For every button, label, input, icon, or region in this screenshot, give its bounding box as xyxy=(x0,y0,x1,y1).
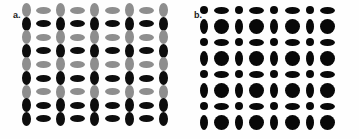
lattice-cell-a-r2-c5 xyxy=(105,34,120,41)
lattice-cell-b-r1-c6 xyxy=(306,19,314,34)
lattice-cell-a-r7-c7 xyxy=(139,102,154,109)
lattice-cell-b-r4-c6 xyxy=(306,70,314,78)
lattice-cell-b-r6-c3 xyxy=(249,103,264,110)
lattice-cell-a-r0-c6 xyxy=(125,3,134,17)
lattice-cell-b-r3-c2 xyxy=(235,51,243,66)
lattice-cell-b-r3-c0 xyxy=(200,51,208,66)
lattice-cell-a-r8-c3 xyxy=(70,115,85,122)
lattice-cell-a-r6-c1 xyxy=(36,88,51,95)
lattice-cell-a-r4-c7 xyxy=(139,61,154,68)
lattice-cell-a-r5-c3 xyxy=(70,75,85,82)
lattice-cell-a-r3-c4 xyxy=(90,44,99,58)
lattice-cell-a-r2-c1 xyxy=(36,34,51,41)
lattice-cell-a-r0-c4 xyxy=(90,3,99,17)
lattice-cell-a-r7-c6 xyxy=(125,98,134,112)
lattice-cell-b-r5-c2 xyxy=(235,83,243,98)
lattice-cell-a-r0-c2 xyxy=(56,3,65,17)
lattice-cell-b-r7-c7 xyxy=(320,115,335,130)
lattice-cell-b-r1-c7 xyxy=(320,19,335,34)
lattice-cell-a-r2-c2 xyxy=(56,30,65,44)
lattice-cell-b-r1-c2 xyxy=(235,19,243,34)
lattice-cell-b-r2-c0 xyxy=(200,38,208,46)
lattice-cell-b-r1-c5 xyxy=(285,19,300,34)
lattice-cell-b-r7-c0 xyxy=(200,115,208,130)
lattice-cell-a-r6-c8 xyxy=(159,85,168,99)
lattice-cell-b-r3-c7 xyxy=(320,51,335,66)
lattice-cell-a-r4-c4 xyxy=(90,57,99,71)
lattice-cell-a-r6-c0 xyxy=(22,85,31,99)
lattice-cell-b-r1-c1 xyxy=(214,19,229,34)
lattice-cell-a-r8-c8 xyxy=(159,112,168,126)
lattice-cell-a-r4-c5 xyxy=(105,61,120,68)
lattice-cell-b-r1-c3 xyxy=(249,19,264,34)
lattice-cell-b-r4-c5 xyxy=(285,71,300,78)
lattice-cell-a-r1-c5 xyxy=(105,20,120,27)
lattice-cell-a-r8-c2 xyxy=(56,112,65,126)
lattice-cell-a-r5-c1 xyxy=(36,75,51,82)
lattice-cell-a-r2-c6 xyxy=(125,30,134,44)
lattice-cell-a-r1-c1 xyxy=(36,20,51,27)
lattice-cell-a-r7-c0 xyxy=(22,98,31,112)
lattice-cell-a-r3-c1 xyxy=(36,47,51,54)
lattice-cell-b-r0-c6 xyxy=(306,6,314,14)
lattice-cell-a-r5-c5 xyxy=(105,75,120,82)
lattice-cell-a-r3-c2 xyxy=(56,44,65,58)
lattice-cell-a-r3-c3 xyxy=(70,47,85,54)
lattice-cell-a-r7-c8 xyxy=(159,98,168,112)
lattice-cell-a-r1-c4 xyxy=(90,17,99,31)
lattice-cell-b-r7-c5 xyxy=(285,115,300,130)
lattice-cell-b-r6-c0 xyxy=(200,102,208,110)
lattice-cell-b-r4-c3 xyxy=(249,71,264,78)
lattice-cell-a-r4-c8 xyxy=(159,57,168,71)
panel-b-lattice xyxy=(180,0,359,139)
lattice-cell-b-r2-c2 xyxy=(235,38,243,46)
panel-a: a. xyxy=(0,0,180,139)
lattice-cell-b-r2-c7 xyxy=(320,39,335,46)
lattice-cell-b-r0-c1 xyxy=(214,7,229,14)
panel-a-lattice xyxy=(0,0,180,139)
lattice-cell-a-r4-c0 xyxy=(22,57,31,71)
lattice-cell-b-r2-c4 xyxy=(270,38,278,46)
lattice-cell-b-r5-c0 xyxy=(200,83,208,98)
lattice-cell-a-r5-c2 xyxy=(56,71,65,85)
lattice-cell-b-r7-c3 xyxy=(249,115,264,130)
lattice-cell-a-r2-c4 xyxy=(90,30,99,44)
lattice-cell-b-r4-c7 xyxy=(320,71,335,78)
lattice-cell-a-r6-c7 xyxy=(139,88,154,95)
lattice-cell-b-r5-c1 xyxy=(214,83,229,98)
lattice-cell-b-r7-c2 xyxy=(235,115,243,130)
lattice-cell-b-r0-c7 xyxy=(320,7,335,14)
lattice-cell-b-r5-c4 xyxy=(270,83,278,98)
lattice-cell-a-r7-c3 xyxy=(70,102,85,109)
lattice-cell-a-r8-c6 xyxy=(125,112,134,126)
lattice-cell-b-r3-c4 xyxy=(270,51,278,66)
lattice-cell-b-r4-c1 xyxy=(214,71,229,78)
lattice-cell-a-r8-c1 xyxy=(36,115,51,122)
lattice-cell-a-r8-c7 xyxy=(139,115,154,122)
lattice-cell-a-r1-c3 xyxy=(70,20,85,27)
lattice-cell-b-r2-c3 xyxy=(249,39,264,46)
lattice-cell-a-r0-c7 xyxy=(139,7,154,14)
lattice-cell-a-r1-c6 xyxy=(125,17,134,31)
lattice-cell-a-r4-c1 xyxy=(36,61,51,68)
lattice-cell-b-r2-c1 xyxy=(214,39,229,46)
lattice-cell-a-r1-c7 xyxy=(139,20,154,27)
lattice-cell-a-r2-c0 xyxy=(22,30,31,44)
lattice-cell-a-r8-c5 xyxy=(105,115,120,122)
lattice-cell-a-r3-c0 xyxy=(22,44,31,58)
lattice-cell-a-r2-c7 xyxy=(139,34,154,41)
lattice-cell-a-r3-c8 xyxy=(159,44,168,58)
lattice-cell-b-r3-c6 xyxy=(306,51,314,66)
panel-b: b. xyxy=(180,0,359,139)
lattice-cell-a-r4-c2 xyxy=(56,57,65,71)
lattice-cell-b-r5-c6 xyxy=(306,83,314,98)
lattice-cell-b-r7-c4 xyxy=(270,115,278,130)
lattice-cell-b-r4-c2 xyxy=(235,70,243,78)
lattice-cell-a-r0-c1 xyxy=(36,7,51,14)
lattice-cell-b-r6-c2 xyxy=(235,102,243,110)
lattice-cell-a-r7-c2 xyxy=(56,98,65,112)
lattice-cell-a-r7-c5 xyxy=(105,102,120,109)
lattice-cell-a-r5-c6 xyxy=(125,71,134,85)
lattice-cell-b-r0-c3 xyxy=(249,7,264,14)
lattice-cell-a-r5-c8 xyxy=(159,71,168,85)
